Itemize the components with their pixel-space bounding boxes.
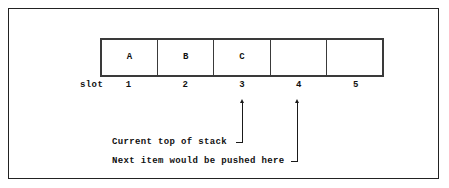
annotation-current-top-of-stack: Current top of stack — [112, 136, 227, 148]
stack-cell-2: B — [158, 40, 214, 75]
slot-number: 5 — [327, 79, 384, 91]
stack-cell-1: A — [102, 40, 158, 75]
stack-cell-value: B — [183, 53, 189, 62]
leader-stem — [242, 103, 243, 142]
stack-cell-5 — [327, 40, 382, 75]
stack-cell-value: A — [127, 53, 133, 62]
figure-frame: A B C slot 1 2 3 4 5 — [8, 8, 439, 179]
stack-box: A B C — [100, 38, 384, 77]
stack-cell-4 — [271, 40, 327, 75]
slot-number: 1 — [100, 79, 157, 91]
leader-foot — [291, 161, 298, 162]
slot-number: 2 — [157, 79, 214, 91]
stack-diagram-figure: A B C slot 1 2 3 4 5 — [0, 0, 449, 188]
leader-stem — [297, 103, 298, 161]
annotation-next-push-location: Next item would be pushed here — [112, 155, 285, 167]
stack-cell-3: C — [214, 40, 270, 75]
stack-cell-value: C — [239, 53, 245, 62]
slot-number: 3 — [214, 79, 271, 91]
slot-number-row: 1 2 3 4 5 — [100, 79, 384, 91]
leader-foot — [236, 142, 243, 143]
slot-number: 4 — [270, 79, 327, 91]
